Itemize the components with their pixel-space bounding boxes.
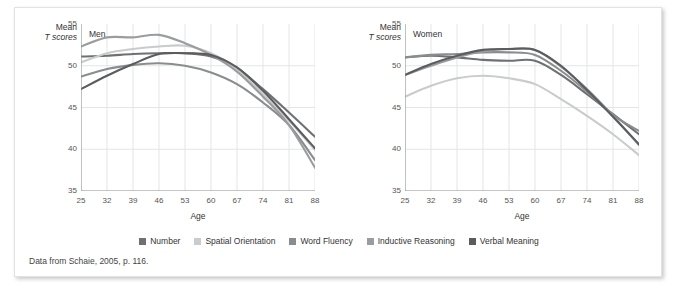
legend-label: Word Fluency (300, 236, 352, 246)
plot-svg-women (405, 24, 639, 191)
chart-panels: Mean T scores Men 3540455055 25323946536… (15, 8, 663, 230)
legend-label: Verbal Meaning (480, 236, 539, 246)
legend-swatch-icon (194, 238, 201, 245)
chart-panel-men: Mean T scores Men 3540455055 25323946536… (15, 8, 339, 230)
figure-card: Mean T scores Men 3540455055 25323946536… (14, 7, 662, 277)
x-tick-label: 81 (278, 196, 300, 205)
y-tick-label: 40 (381, 144, 401, 153)
y-tick-label: 55 (381, 19, 401, 28)
x-tick-label: 81 (602, 196, 624, 205)
x-axis-title-men: Age (81, 211, 315, 221)
source-caption: Data from Schaie, 2005, p. 116. (29, 256, 148, 266)
legend-swatch-icon (139, 238, 146, 245)
x-tick-label: 46 (148, 196, 170, 205)
x-tick-label: 88 (628, 196, 650, 205)
x-tick-label: 32 (96, 196, 118, 205)
x-tick-label: 67 (550, 196, 572, 205)
x-tick-label: 88 (304, 196, 326, 205)
y-tick-label: 50 (57, 61, 77, 70)
legend-swatch-icon (289, 238, 296, 245)
x-tick-label: 53 (498, 196, 520, 205)
x-tick-label: 39 (446, 196, 468, 205)
x-tick-label: 46 (472, 196, 494, 205)
x-tick-label: 25 (394, 196, 416, 205)
x-tick-label: 25 (70, 196, 92, 205)
x-tick-label: 53 (174, 196, 196, 205)
x-tick-label: 32 (420, 196, 442, 205)
legend-item: Verbal Meaning (469, 236, 539, 246)
legend-item: Inductive Reasoning (367, 236, 455, 246)
chart-panel-women: Mean T scores Women 3540455055 253239465… (339, 8, 663, 230)
plot-area-men (81, 24, 315, 191)
y-tick-label: 35 (57, 186, 77, 195)
legend-label: Spatial Orientation (205, 236, 275, 246)
legend-swatch-icon (469, 238, 476, 245)
x-tick-label: 74 (252, 196, 274, 205)
x-tick-label: 60 (200, 196, 222, 205)
y-tick-label: 40 (57, 144, 77, 153)
x-axis-title-women: Age (405, 211, 639, 221)
y-tick-label: 45 (381, 103, 401, 112)
legend-item: Number (139, 236, 180, 246)
y-tick-label: 55 (57, 19, 77, 28)
x-tick-label: 39 (122, 196, 144, 205)
legend-label: Number (150, 236, 180, 246)
y-tick-label: 35 (381, 186, 401, 195)
y-axis-title-line2: T scores (44, 32, 77, 42)
legend-swatch-icon (367, 238, 374, 245)
x-tick-label: 67 (226, 196, 248, 205)
x-tick-label: 60 (524, 196, 546, 205)
legend-item: Word Fluency (289, 236, 352, 246)
y-axis-title-line2: T scores (368, 32, 401, 42)
legend-item: Spatial Orientation (194, 236, 275, 246)
legend-label: Inductive Reasoning (378, 236, 455, 246)
panel-label-men: Men (89, 29, 106, 39)
plot-area-women (405, 24, 639, 191)
plot-svg-men (81, 24, 315, 191)
chart-legend: NumberSpatial OrientationWord FluencyInd… (15, 232, 663, 250)
panel-label-women: Women (413, 29, 442, 39)
y-tick-label: 45 (57, 103, 77, 112)
y-tick-label: 50 (381, 61, 401, 70)
x-tick-label: 74 (576, 196, 598, 205)
